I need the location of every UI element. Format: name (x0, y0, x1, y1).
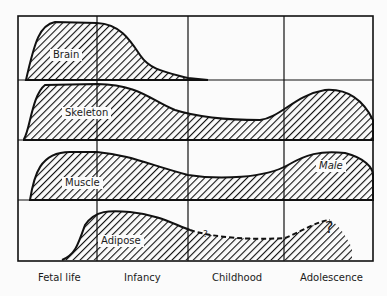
brain-label: Brain (50, 49, 82, 61)
uncertain-mark-large: ? (322, 222, 337, 234)
axis-adolescence: Adolescence (300, 272, 363, 283)
axis-infancy: Infancy (124, 272, 161, 283)
growth-diagram (0, 0, 387, 296)
axis-childhood: Childhood (212, 272, 262, 283)
skeleton-label: Skeleton (62, 107, 111, 119)
uncertain-mark: ? (200, 228, 211, 240)
axis-fetal: Fetal life (38, 272, 81, 283)
muscle-label: Muscle (62, 177, 103, 189)
adipose-label: Adipose (98, 235, 144, 247)
male-label: Male (316, 160, 346, 172)
